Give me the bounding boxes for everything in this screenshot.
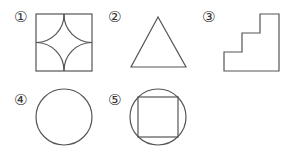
shape-1-arc-bottom-left xyxy=(36,43,64,72)
shape-1-square-with-arcs xyxy=(36,14,92,71)
shape-2-triangle xyxy=(131,17,186,67)
shape-5-inscribed-square xyxy=(138,97,178,137)
shape-1-square xyxy=(36,14,92,71)
shape-1-arc-top-right xyxy=(64,14,92,43)
shape-3-staircase xyxy=(224,14,279,71)
figure-canvas: ① ② ③ ④ ⑤ xyxy=(0,0,287,149)
shapes-svg xyxy=(0,0,287,149)
shape-1-arc-top-left xyxy=(36,14,64,43)
shape-1-arc-bottom-right xyxy=(64,42,92,71)
shape-4-circle xyxy=(36,89,92,145)
shape-5-circle-with-square xyxy=(130,89,186,145)
